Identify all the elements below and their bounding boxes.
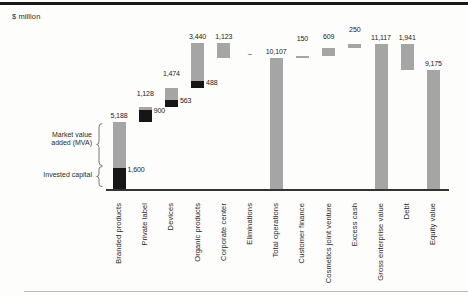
value-label-equity-value: 9,175 (411, 59, 455, 68)
invested-capital-label: Invested capital (18, 171, 92, 180)
invested-capital-value-devices: 563 (180, 96, 191, 105)
invested-capital-annotation: Invested capital (18, 171, 92, 180)
bar-cosmetics-joint-venture (322, 48, 335, 56)
waterfall-chart: Market value added (MVA) Invested capita… (0, 0, 468, 296)
invested-capital-brace (96, 166, 103, 187)
invested-capital-value-private-label: 900 (154, 106, 165, 115)
value-label-devices: 1,474 (149, 69, 193, 78)
bar-customer-finance (296, 56, 309, 58)
x-axis-line (106, 189, 449, 191)
invested-capital-value-organic-products: 488 (206, 78, 217, 87)
invested-capital-segment-organic-products (191, 81, 204, 87)
bar-total-operations (270, 58, 283, 189)
value-label-corporate-center: 1,123 (202, 32, 246, 41)
mva-label-line1: Market value (18, 131, 92, 140)
mva-annotation: Market value added (MVA) (18, 131, 92, 148)
value-label-debt: 1,941 (385, 33, 429, 42)
bar-equity-value (427, 70, 440, 189)
invested-capital-value-branded-products: 1,600 (128, 165, 145, 174)
invested-capital-segment-private-label (139, 110, 152, 122)
invested-capital-segment-branded-products (113, 168, 126, 189)
value-label-branded-products: 5,188 (97, 111, 141, 120)
mva-label-line2: added (MVA) (18, 139, 92, 148)
mva-brace (96, 123, 103, 166)
value-label-total-operations: 10,107 (254, 47, 298, 56)
bar-excess-cash (348, 44, 361, 47)
bottom-rule (24, 291, 468, 292)
report-page: $ million Market value added (MVA) Inves… (0, 0, 468, 296)
bar-gross-enterprise-value (375, 44, 388, 189)
invested-capital-segment-devices (165, 100, 178, 107)
value-label-private-label: 1,128 (123, 89, 167, 98)
